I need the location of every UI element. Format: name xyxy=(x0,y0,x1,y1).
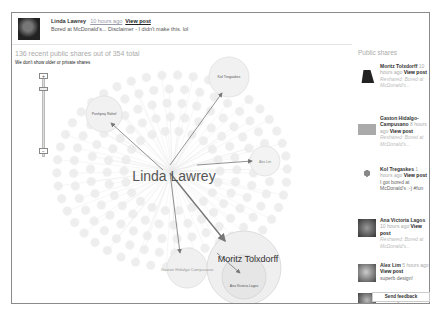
avatar[interactable] xyxy=(358,117,376,135)
avatar[interactable] xyxy=(358,65,376,83)
avatar[interactable] xyxy=(358,264,376,282)
svg-text:Alex Lim[interactable]: Alex Lim xyxy=(259,160,272,164)
svg-text:Moritz Tolxdorff[interactable]: Moritz Tolxdorff xyxy=(218,254,279,264)
shares-summary: 136 recent public shares out of 354 tota… xyxy=(15,50,140,57)
zoom-in-button[interactable]: + xyxy=(39,73,48,79)
node-label[interactable]: Pushpraj Rohel xyxy=(92,112,117,116)
ripples-frame: Linda Lawrey10 hours agoView post Bored … xyxy=(11,12,430,304)
public-shares-sidebar: Public shares Moritz Tolxdorff 10 hours … xyxy=(352,45,430,304)
zoom-slider-handle[interactable] xyxy=(39,87,48,91)
svg-text:Ana Victoria Lagos[interactable]: Ana Victoria Lagos xyxy=(230,284,259,288)
zoom-out-button[interactable]: − xyxy=(39,148,48,154)
send-feedback-button[interactable]: Send feedback xyxy=(372,292,430,302)
shares-note: We don't show older or private shares xyxy=(15,60,90,65)
svg-text:Gaston Hidalgo Campusano[interactable]: Gaston Hidalgo Campusano xyxy=(161,267,214,272)
avatar[interactable] xyxy=(358,168,376,186)
svg-text:Kol Tregaskes[interactable]: Kol Tregaskes xyxy=(218,75,241,79)
center-node-label[interactable]: Linda Lawrey xyxy=(132,168,215,184)
avatar[interactable] xyxy=(358,219,376,237)
sidebar-title: Public shares xyxy=(358,49,430,56)
